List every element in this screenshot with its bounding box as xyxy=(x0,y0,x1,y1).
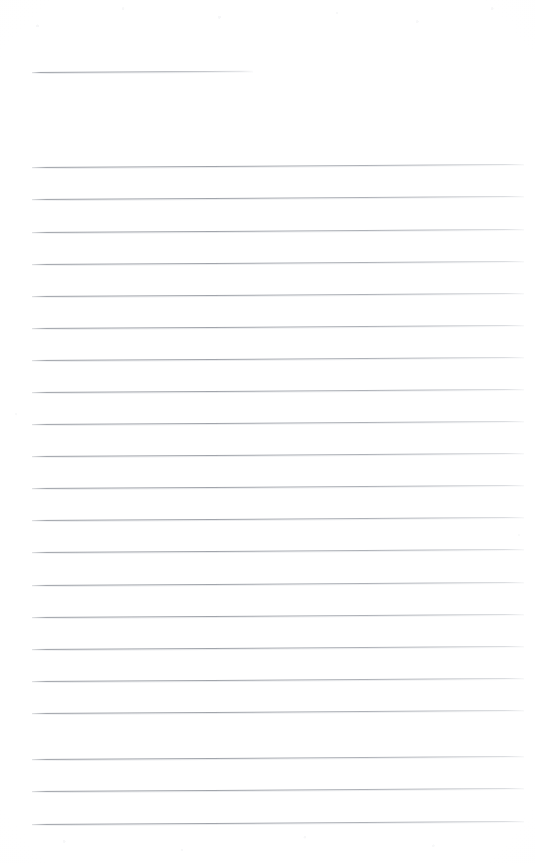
ruled-line xyxy=(32,357,524,361)
ruled-line xyxy=(32,788,524,792)
ruled-line xyxy=(32,261,524,265)
ruled-line xyxy=(32,710,524,714)
scanned-page xyxy=(0,0,535,863)
ruled-line xyxy=(32,453,524,457)
ruled-line xyxy=(32,421,524,425)
ruled-line xyxy=(32,164,524,168)
ruled-line xyxy=(32,646,524,650)
ruled-line xyxy=(32,756,524,760)
ruled-line xyxy=(32,517,524,521)
scan-noise-overlay xyxy=(0,0,535,863)
ruled-line xyxy=(32,678,524,682)
ruled-line xyxy=(32,614,524,618)
ruled-line xyxy=(32,821,524,825)
ruled-line xyxy=(32,549,524,553)
ruled-line xyxy=(32,325,524,329)
ruled-line xyxy=(32,229,524,233)
ruled-line xyxy=(32,485,524,489)
title-rule xyxy=(32,71,253,73)
ruled-line xyxy=(32,389,524,393)
ruled-line xyxy=(32,196,524,200)
ruled-line xyxy=(32,293,524,297)
ruled-line xyxy=(32,582,524,586)
